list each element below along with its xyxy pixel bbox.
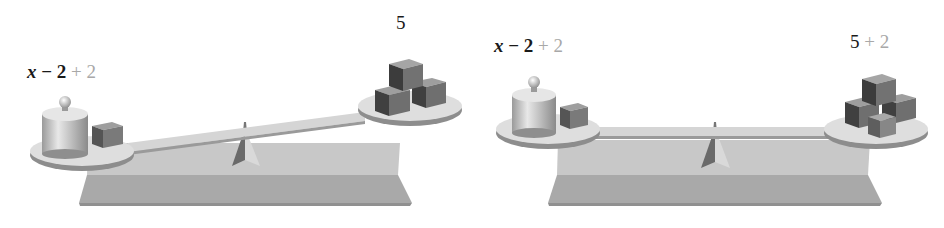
added-term: + 2 xyxy=(864,31,889,52)
left-pan xyxy=(30,96,134,171)
beam xyxy=(592,127,834,139)
unit-cube-icon xyxy=(92,122,123,148)
constant: 2 xyxy=(524,35,534,56)
left-pan-expression: x − 2 + 2 xyxy=(494,35,563,57)
added-term: + 2 xyxy=(71,61,96,82)
operator: − xyxy=(41,61,52,82)
right-pan xyxy=(824,74,928,149)
x-weight-icon xyxy=(42,96,88,159)
constant: 5 xyxy=(850,31,860,52)
unit-cube-icon xyxy=(560,103,588,129)
constant: 5 xyxy=(396,12,406,33)
balanced-balance-scale: x − 2 + 2 5 + 2 xyxy=(472,0,944,228)
unit-cube-icon xyxy=(868,113,896,138)
right-pan-expression: 5 + 2 xyxy=(850,31,889,53)
right-pan xyxy=(358,59,462,126)
unit-cube-icon xyxy=(389,59,423,91)
operator: − xyxy=(508,35,519,56)
right-pan-expression: 5 xyxy=(396,12,406,34)
added-term: + 2 xyxy=(538,35,563,56)
unit-cube-icon xyxy=(862,74,896,106)
balance-scale-illustration xyxy=(0,0,472,228)
variable-x: x xyxy=(494,35,504,56)
x-weight-icon xyxy=(512,76,556,138)
left-pan-expression: x − 2 + 2 xyxy=(27,61,96,83)
variable-x: x xyxy=(27,61,37,82)
left-pan xyxy=(496,76,600,149)
tilted-balance-scale: x − 2 + 2 5 xyxy=(0,0,472,228)
constant: 2 xyxy=(57,61,67,82)
